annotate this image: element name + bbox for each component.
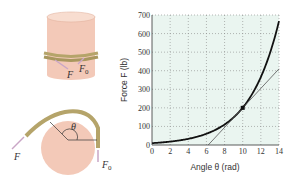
- x-tick-label: 2: [168, 147, 172, 156]
- y-tick-label: 600: [138, 30, 150, 39]
- tangent-point-marker: [241, 106, 245, 110]
- label-F0-bottom: F0: [101, 159, 112, 172]
- y-axis-label: Force F (lb): [119, 58, 129, 102]
- force-angle-chart: 02468101214 0100200300400500600700 Angle…: [119, 11, 283, 172]
- y-tick-label: 0: [146, 141, 150, 150]
- y-tick-labels: 0100200300400500600700: [138, 11, 150, 150]
- cylinder-illustration: F F0: [44, 12, 98, 80]
- label-F-top: F: [66, 69, 74, 80]
- x-tick-label: 12: [257, 147, 265, 156]
- x-tick-label: 14: [275, 147, 283, 156]
- disk-illustration: θ F F0: [12, 111, 112, 175]
- cylinder-top: [47, 12, 95, 22]
- cylinder-body: [47, 17, 95, 75]
- y-tick-label: 200: [138, 104, 150, 113]
- x-tick-labels: 02468101214: [150, 147, 283, 156]
- label-F-bottom: F: [13, 151, 21, 162]
- y-tick-label: 700: [138, 11, 150, 20]
- x-tick-label: 6: [204, 147, 208, 156]
- figure: F F0 θ F F0 02468101214 0100200300400500…: [0, 0, 290, 180]
- x-axis-label: Angle θ (rad): [190, 162, 239, 172]
- force-arrow-F-bottom: [12, 137, 24, 149]
- y-tick-label: 300: [138, 85, 150, 94]
- y-tick-label: 400: [138, 67, 150, 76]
- y-tick-label: 500: [138, 48, 150, 57]
- x-tick-label: 8: [223, 147, 227, 156]
- y-tick-label: 100: [138, 122, 150, 131]
- x-tick-label: 0: [150, 147, 154, 156]
- x-tick-label: 4: [186, 147, 190, 156]
- label-theta: θ: [71, 121, 76, 132]
- x-tick-label: 10: [239, 147, 247, 156]
